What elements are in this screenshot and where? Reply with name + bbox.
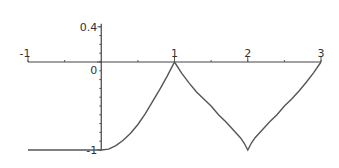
y-tick-label: 0.4 (80, 21, 98, 34)
function-curve (28, 62, 321, 150)
y-tick-label: 0 (90, 64, 97, 77)
x-tick-label: 3 (318, 47, 325, 60)
x-tick-label: -1 (20, 47, 31, 60)
ticks (28, 27, 321, 150)
x-tick-label: 1 (171, 47, 178, 60)
axes (28, 24, 321, 150)
chart: -11230.40-1 (0, 0, 339, 168)
x-tick-label: 2 (244, 47, 251, 60)
tick-labels: -11230.40-1 (20, 21, 325, 157)
